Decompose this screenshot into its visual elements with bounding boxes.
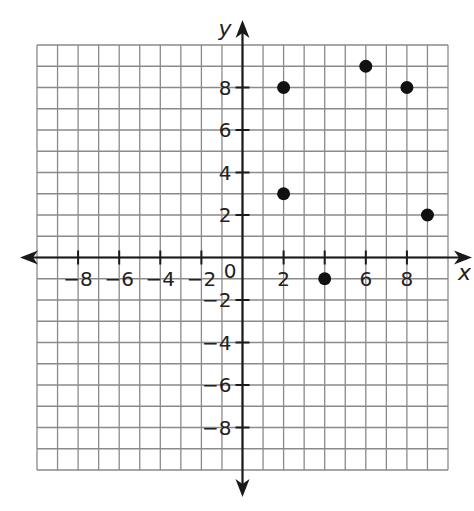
data-point — [277, 81, 290, 94]
y-tick-label: 6 — [219, 118, 232, 142]
y-tick-label: 8 — [219, 76, 232, 100]
data-point — [400, 81, 413, 94]
x-axis-label: x — [457, 260, 472, 285]
y-tick-label: −2 — [202, 288, 231, 312]
x-tick-label: −2 — [187, 267, 216, 291]
data-point — [421, 209, 434, 222]
x-tick-label: −8 — [63, 267, 92, 291]
x-tick-label: 8 — [401, 267, 414, 291]
x-tick-label: −4 — [146, 267, 175, 291]
data-point — [359, 60, 372, 73]
coordinate-plane: xy−8−6−4−2268−8−6−4−224680 — [0, 0, 474, 511]
x-tick-label: −6 — [104, 267, 133, 291]
data-point — [277, 187, 290, 200]
origin-label: 0 — [224, 259, 237, 283]
y-tick-label: 2 — [219, 203, 232, 227]
y-tick-label: −8 — [202, 416, 231, 440]
x-tick-label: 2 — [277, 267, 290, 291]
y-tick-label: −4 — [202, 331, 231, 355]
y-axis-label: y — [218, 16, 233, 41]
x-tick-label: 6 — [359, 267, 372, 291]
y-tick-label: 4 — [219, 161, 232, 185]
tick-labels: xy−8−6−4−2268−8−6−4−224680 — [63, 16, 472, 440]
y-tick-label: −6 — [202, 373, 231, 397]
data-point — [318, 272, 331, 285]
